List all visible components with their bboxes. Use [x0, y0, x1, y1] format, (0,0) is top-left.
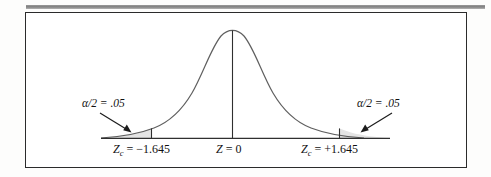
alpha-left-label: α/2 = .05: [82, 97, 125, 109]
distribution-plot: [0, 0, 491, 177]
z-center-variable: Z: [216, 142, 223, 156]
z-critical-left-variable: Z: [113, 142, 120, 156]
normal-distribution-figure: α/2 = .05 α/2 = .05 Zc = −1.645 Z = 0 Zc…: [0, 0, 491, 177]
z-center-value: = 0: [223, 142, 242, 156]
alpha-right-label: α/2 = .05: [357, 97, 400, 109]
right-annotation-arrow: [361, 113, 393, 132]
z-critical-left-label: Zc = −1.645: [113, 142, 170, 157]
z-critical-left-subscript: c: [120, 148, 124, 158]
z-center-label: Z = 0: [216, 142, 241, 157]
left-annotation-arrow: [100, 113, 132, 132]
z-critical-right-value: = +1.645: [311, 142, 358, 156]
alpha-right-text: α/2 = .05: [357, 97, 400, 109]
z-critical-right-label: Zc = +1.645: [301, 142, 358, 157]
z-critical-left-value: = −1.645: [123, 142, 170, 156]
alpha-left-text: α/2 = .05: [82, 97, 125, 109]
z-critical-right-subscript: c: [308, 148, 312, 158]
z-critical-right-variable: Z: [301, 142, 308, 156]
